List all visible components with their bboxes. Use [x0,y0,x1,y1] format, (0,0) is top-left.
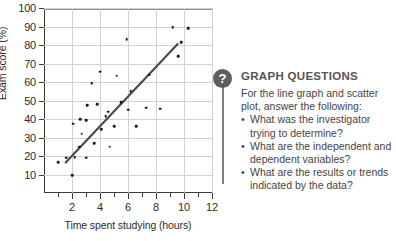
scatter-point [180,41,183,44]
graph-questions-callout: ? GRAPH QUESTIONS For the line graph and… [213,66,396,184]
scatter-point [172,26,175,29]
trend-line [44,8,212,193]
scatter-point [72,122,75,125]
x-axis-minor-tick [114,193,115,197]
callout-title: GRAPH QUESTIONS [241,70,358,82]
y-axis-tick-label: 50 [10,95,36,107]
x-axis-title: Time spent studying (hours) [44,219,212,231]
x-axis-tick [72,193,73,199]
scatter-point [120,101,123,104]
scatter-point [187,27,190,30]
scatter-point [109,145,112,148]
scatter-point [107,110,110,113]
x-axis-tick-label: 8 [153,201,159,213]
scatter-point [177,55,180,58]
y-axis-tick-label: 20 [10,150,36,162]
scatter-point [116,74,119,77]
y-axis-tick-label: 70 [10,58,36,70]
graph-figure: Exam score (%) 102030405060708090100 246… [0,0,396,241]
x-axis-tick [100,193,101,199]
callout-question-list: What was the investigator trying to dete… [241,113,396,192]
y-axis-tick-label: 60 [10,76,36,88]
scatter-point [85,157,88,160]
scatter-point [65,157,68,160]
x-axis-tick-label: 6 [125,201,131,213]
scatter-point [90,82,93,85]
scatter-point [99,71,102,74]
x-axis-tick [156,193,157,199]
x-axis-tick [184,193,185,199]
x-axis-tick-label: 10 [178,201,190,213]
y-axis-tick-label: 10 [10,169,36,181]
scatter-point [130,90,133,93]
x-axis-minor-tick [142,193,143,197]
scatter-point [113,125,116,128]
scatter-point [145,107,148,110]
scatter-point [85,119,88,122]
x-axis-minor-tick [86,193,87,197]
x-axis-tick [128,193,129,199]
y-axis-tick-label: 80 [10,39,36,51]
y-axis-tick-label: 100 [10,2,36,14]
callout-question-item: What are the results or trends indicated… [241,166,396,192]
question-mark-icon: ? [213,69,232,88]
x-axis-tick-label: 12 [206,201,218,213]
scatter-point [74,156,77,159]
scatter-point [96,103,99,106]
scatter-plot-area: 102030405060708090100 24681012 [44,8,212,193]
scatter-point [78,145,81,148]
scatter-point [57,161,60,164]
scatter-point [159,108,162,111]
y-axis-tick-label: 40 [10,113,36,125]
x-axis-tick [212,193,213,199]
scatter-point [86,104,89,107]
callout-body: For the line graph and scatter plot, ans… [241,87,396,193]
x-axis-minor-tick [170,193,171,197]
scatter-point [100,128,103,131]
callout-intro-text: For the line graph and scatter plot, ans… [241,87,396,113]
scatter-point [104,115,107,118]
x-axis-tick-label: 4 [97,201,103,213]
callout-question-item: What are the independent and dependent v… [241,140,396,166]
scatter-point [81,133,84,136]
y-axis-tick-label: 30 [10,132,36,144]
scatter-point [93,142,96,145]
scatter-point [127,108,130,111]
x-axis-minor-tick [58,193,59,197]
scatter-point [135,125,138,128]
y-axis-tick-label: 90 [10,21,36,33]
scatter-point [71,174,74,177]
scatter-point [148,73,151,76]
callout-question-item: What was the investigator trying to dete… [241,113,396,139]
x-axis-minor-tick [198,193,199,197]
y-axis-title: Exam score (%) [0,27,8,100]
x-axis-tick-label: 2 [69,201,75,213]
scatter-point [79,118,82,121]
scatter-point [125,38,128,41]
